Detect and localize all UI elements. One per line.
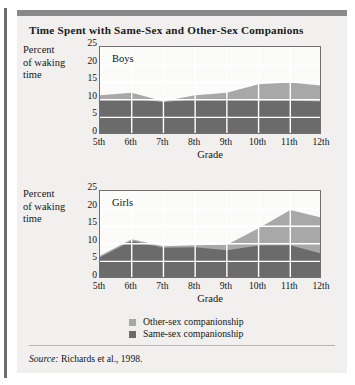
chart-panel-boys: Percent of waking time 0510152025 Boys 5… [17,42,347,172]
y-axis-tick-label: 10 [87,91,97,101]
y-axis-tick-label: 0 [92,126,97,136]
y-axis-tick-label: 25 [87,182,97,192]
x-axis-tick-label: 12th [312,136,329,147]
left-spine-rule [4,8,7,378]
x-axis-tick-label: 6th [125,136,137,147]
legend-label-same-sex: Same-sex companionship [143,328,243,339]
x-axis-tick-label: 9th [220,136,232,147]
panel-title-boys: Boys [112,53,134,64]
x-axis-tick-label: 10th [249,136,266,147]
y-axis-tick-label: 0 [92,270,97,280]
x-axis-tick-label: 9th [220,280,232,291]
y-axis-ticks-boys: 0510152025 [69,39,97,135]
y-axis-tick-label: 15 [87,73,97,83]
plot-canvas-boys: Boys [99,46,321,134]
x-axis-tick-label: 6th [125,280,137,291]
y-axis-tick-label: 10 [87,235,97,245]
x-axis-tick-label: 7th [156,280,168,291]
legend-swatch-other-sex [129,319,136,326]
source-note: Source: Richards et al., 1998. [29,353,335,364]
x-axis-tick-label: 10th [249,280,266,291]
plot-canvas-girls: Girls [99,190,321,278]
panel-title-girls: Girls [112,197,133,208]
legend-item-other-sex: Other-sex companionship [17,316,347,328]
source-prefix: Source: [29,353,58,364]
x-axis-tick-label: 5th [93,280,105,291]
x-axis-tick-label: 8th [188,280,200,291]
x-axis-tick-label: 11th [281,136,298,147]
y-axis-tick-label: 20 [87,56,97,66]
legend-item-same-sex: Same-sex companionship [17,328,347,340]
y-axis-tick-label: 20 [87,200,97,210]
plot-area-girls: Girls [99,190,321,278]
x-axis-tick-label: 12th [312,280,329,291]
x-axis-title-boys: Grade [99,149,321,160]
source-divider [29,345,335,346]
plot-area-boys: Boys [99,46,321,134]
x-axis-ticks-boys: 5th6th7th8th9th10th11th12th [99,136,321,150]
y-axis-ticks-girls: 0510152025 [69,183,97,279]
x-axis-tick-label: 7th [156,136,168,147]
y-axis-tick-label: 15 [87,217,97,227]
chart-legend: Other-sex companionship Same-sex compani… [17,316,347,340]
y-axis-tick-label: 5 [92,108,97,118]
top-accent-bar [17,10,347,16]
figure-container: Time Spent with Same-Sex and Other-Sex C… [0,0,355,385]
x-axis-ticks-girls: 5th6th7th8th9th10th11th12th [99,280,321,294]
figure-title: Time Spent with Same-Sex and Other-Sex C… [29,24,339,36]
area-chart-svg-girls [100,191,321,278]
x-axis-tick-label: 11th [281,280,298,291]
y-axis-tick-label: 25 [87,38,97,48]
x-axis-tick-label: 5th [93,136,105,147]
legend-label-other-sex: Other-sex companionship [143,316,244,327]
x-axis-title-girls: Grade [99,293,321,304]
y-axis-tick-label: 5 [92,252,97,262]
figure-card: Time Spent with Same-Sex and Other-Sex C… [17,10,347,373]
legend-swatch-same-sex [129,331,136,338]
x-axis-tick-label: 8th [188,136,200,147]
chart-panel-girls: Percent of waking time 0510152025 Girls … [17,186,347,316]
source-citation: Richards et al., 1998. [58,353,142,364]
